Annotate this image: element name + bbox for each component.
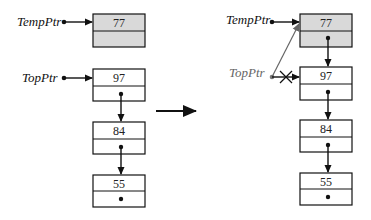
node-84: 84 <box>300 120 352 152</box>
after-state: TempPtr 77 TopPtr 97 <box>226 12 352 205</box>
null-pointer-icon <box>119 197 123 201</box>
temp-ptr-label: TempPtr <box>226 12 271 27</box>
null-pointer-icon <box>326 195 330 199</box>
node-77: 77 <box>300 14 352 47</box>
top-ptr-label: TopPtr <box>22 70 59 85</box>
node-97: 97 <box>300 67 352 100</box>
node-55: 55 <box>93 175 145 207</box>
node-value: 84 <box>320 122 332 136</box>
node-value: 55 <box>320 175 332 189</box>
node-value: 77 <box>113 16 125 30</box>
node-value: 84 <box>113 124 125 138</box>
node-value: 55 <box>113 177 125 191</box>
top-ptr-new-arrow <box>272 24 299 77</box>
node-value: 97 <box>320 69 332 83</box>
node-value: 97 <box>113 71 125 85</box>
node-value: 77 <box>320 16 332 30</box>
node-84: 84 <box>93 122 145 154</box>
node-97: 97 <box>93 69 145 101</box>
temp-ptr-label: TempPtr <box>17 14 62 29</box>
node-77: 77 <box>93 14 145 47</box>
before-state: TempPtr 77 TopPtr 97 84 <box>17 14 145 207</box>
top-ptr-label: TopPtr <box>229 65 266 80</box>
linked-list-diagram: TempPtr 77 TopPtr 97 84 <box>0 0 371 220</box>
node-55: 55 <box>300 173 352 205</box>
